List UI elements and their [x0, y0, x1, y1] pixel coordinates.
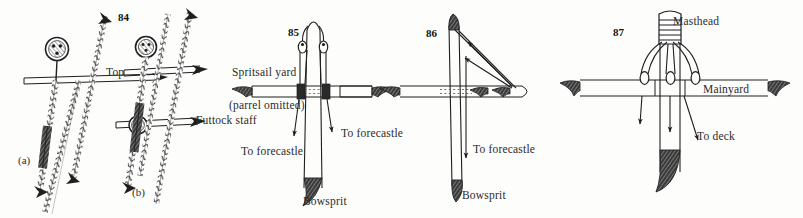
figure-84-sublabel-a: (a) [18, 155, 30, 166]
figure-number-87: 87 [613, 27, 624, 38]
label-masthead: Masthead [673, 16, 719, 28]
label-to-deck: To deck [697, 131, 735, 143]
fig87-mast [656, 11, 681, 192]
fig84b-ropes [122, 8, 198, 204]
rigging-diagram-artwork [0, 0, 803, 218]
label-futtock-staff: Futtock staff [196, 115, 257, 127]
fig85-spritsail-yard [232, 86, 392, 97]
label-to-forecastle-85-left: To forecastle [241, 146, 303, 158]
label-spritsail-yard: Spritsail yard [232, 67, 296, 79]
illustration-page: 84 (a) (b) Top Futtock staff 85 Spritsai… [0, 0, 803, 218]
fig87-slings [640, 42, 700, 140]
figure-84b-group [116, 8, 208, 204]
figure-number-86: 86 [426, 28, 437, 39]
label-bowsprit-86: Bowsprit [462, 190, 506, 202]
label-to-forecastle-85-right: To forecastle [341, 128, 403, 140]
figure-86-group [380, 14, 527, 202]
fig86-bowsprit [449, 14, 463, 202]
label-mainyard: Mainyard [703, 84, 749, 96]
fig84a-deadeye [46, 38, 69, 81]
fig85-slings [294, 26, 332, 136]
fig87-mainyard [560, 80, 790, 96]
label-top: Top [106, 67, 124, 79]
figure-84-sublabel-b: (b) [132, 187, 145, 198]
figure-number-84: 84 [118, 12, 129, 23]
label-bowsprit-85: Bowsprit [303, 196, 347, 208]
fig84b-deadeye-upper [136, 37, 157, 58]
label-parrel-omitted: (parrel omitted) [229, 100, 305, 112]
fig86-yard [380, 86, 527, 97]
figure-number-85: 85 [288, 27, 299, 38]
label-to-forecastle-86: To forecastle [473, 144, 535, 156]
figure-87-group [560, 11, 790, 192]
